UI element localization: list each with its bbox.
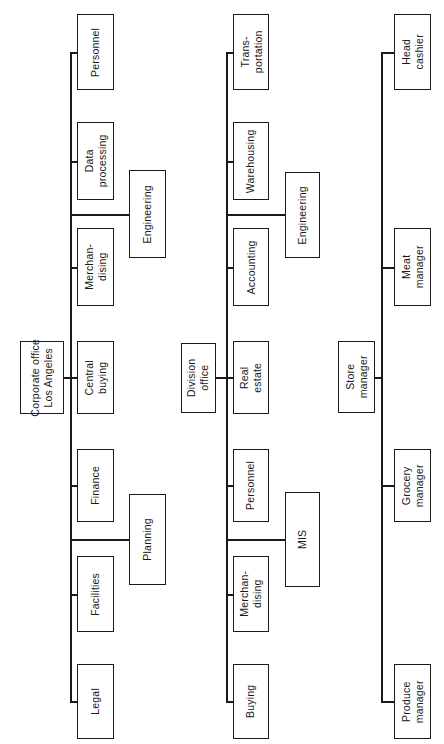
node-label: Produce manager: [400, 680, 426, 723]
node-label: Merchan- dising: [83, 244, 109, 290]
connector-division-to-mis: [226, 539, 286, 541]
node-store-grocery-manager[interactable]: Grocery manager: [394, 449, 431, 522]
connector-corporate-to-planning: [70, 539, 130, 541]
node-division-warehousing[interactable]: Warehousing: [233, 122, 269, 200]
node-label: Store manager: [344, 356, 370, 399]
node-division-transportation[interactable]: Trans- portation: [233, 14, 269, 90]
node-label: Engineering: [141, 185, 154, 243]
node-label: Facilities: [89, 573, 102, 616]
node-corporate-legal[interactable]: Legal: [77, 664, 114, 739]
node-store-manager[interactable]: Store manager: [338, 341, 375, 413]
node-division-personnel[interactable]: Personnel: [233, 449, 269, 522]
node-label: Personnel: [89, 27, 102, 76]
node-label: Finance: [89, 466, 102, 505]
connector-store-branch-cashier: [381, 52, 395, 54]
node-label: Central buying: [83, 360, 109, 395]
node-label: Trans- portation: [238, 31, 264, 74]
node-division-real-estate[interactable]: Real estate: [233, 341, 269, 414]
node-corporate-planning[interactable]: Planning: [129, 494, 166, 585]
node-label: Legal: [89, 688, 102, 715]
node-label: Personnel: [245, 461, 258, 510]
node-store-produce-manager[interactable]: Produce manager: [394, 664, 431, 739]
node-corporate-office-los-angeles[interactable]: Corporate office Los Angeles: [20, 341, 64, 414]
node-corporate-facilities[interactable]: Facilities: [77, 556, 114, 632]
node-division-office[interactable]: Division office: [181, 343, 216, 413]
connector-corporate-to-engineering: [70, 214, 130, 216]
connector-store-to-root: [374, 377, 383, 379]
node-label: Merchan- dising: [238, 571, 264, 617]
node-label: Division office: [186, 359, 212, 397]
node-corporate-finance[interactable]: Finance: [77, 449, 114, 522]
org-chart-canvas: Corporate office Los Angeles Personnel D…: [0, 0, 444, 744]
connector-store-branch-grocery: [381, 485, 395, 487]
node-label: Buying: [245, 685, 258, 718]
node-label: Corporate office Los Angeles: [29, 339, 55, 417]
node-store-head-cashier[interactable]: Head cashier: [394, 14, 431, 90]
connector-store-branch-produce: [381, 701, 395, 703]
node-label: Engineering: [296, 186, 309, 244]
node-corporate-central-buying[interactable]: Central buying: [77, 341, 114, 414]
node-division-buying[interactable]: Buying: [233, 664, 269, 739]
node-division-engineering[interactable]: Engineering: [285, 172, 320, 258]
node-division-merchandising[interactable]: Merchan- dising: [233, 556, 269, 632]
node-corporate-data-processing[interactable]: Data processing: [77, 122, 114, 200]
connector-division-to-engineering: [226, 214, 286, 216]
node-label: Warehousing: [245, 129, 258, 193]
node-corporate-personnel[interactable]: Personnel: [77, 14, 114, 90]
node-corporate-merchandising[interactable]: Merchan- dising: [77, 228, 114, 306]
node-label: Real estate: [238, 363, 264, 393]
node-label: MIS: [296, 530, 309, 549]
node-division-mis[interactable]: MIS: [285, 492, 320, 587]
node-corporate-engineering[interactable]: Engineering: [129, 170, 166, 258]
node-label: Meat manager: [400, 246, 426, 289]
node-store-meat-manager[interactable]: Meat manager: [394, 228, 431, 306]
node-label: Data processing: [83, 135, 109, 188]
node-label: Accounting: [245, 240, 258, 294]
node-label: Head cashier: [400, 34, 426, 69]
connector-store-branch-meat: [381, 267, 395, 269]
node-label: Grocery manager: [400, 464, 426, 507]
node-label: Planning: [141, 518, 154, 560]
node-division-accounting[interactable]: Accounting: [233, 228, 269, 306]
